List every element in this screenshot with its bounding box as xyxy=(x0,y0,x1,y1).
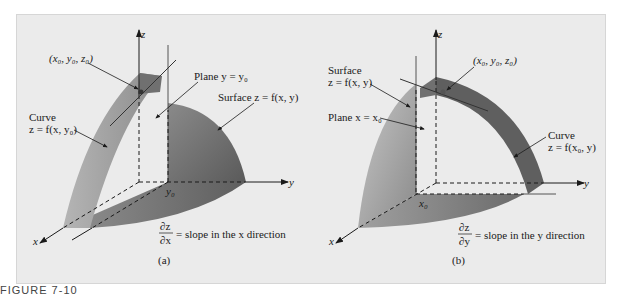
x-axis-a xyxy=(40,228,63,243)
surface-label-b-line2: z = f(x, y) xyxy=(328,76,372,89)
surface-label-a: Surface z = f(x, y) xyxy=(218,91,299,104)
derivative-num-b: ∂z xyxy=(459,221,469,233)
y-axis-label-b: y xyxy=(583,177,589,189)
point-b xyxy=(441,90,446,95)
z-axis-label-a: z xyxy=(140,28,146,40)
curve-label-b-line1: Curve xyxy=(548,129,575,141)
panel-a: z y x y₀ (x₀, y₀, z₀) Plane y = y₀ Surfa… xyxy=(29,28,299,267)
plane-label-a: Plane y = y₀ xyxy=(194,70,248,82)
derivative-num-a: ∂z xyxy=(160,220,170,232)
x-axis-label-a: x xyxy=(32,235,38,247)
derivative-text-b: = slope in the y direction xyxy=(475,229,585,241)
derivative-text-a: = slope in the x direction xyxy=(176,228,286,240)
panel-b: z y x x₀ (x₀, y₀, z₀) Surface z = f(x, y… xyxy=(328,28,596,267)
curve-label-a-line1: Curve xyxy=(29,111,56,123)
figure-diagram: z y x y₀ (x₀, y₀, z₀) Plane y = y₀ Surfa… xyxy=(0,0,618,294)
y-axis-label-a: y xyxy=(288,176,294,188)
curve-label-b-line2: z = f(x₀, y) xyxy=(548,141,596,154)
x-axis-label-b: x xyxy=(328,235,334,247)
sublabel-b: (b) xyxy=(452,254,465,267)
curve-label-a-line2: z = f(x, y₀) xyxy=(29,123,77,136)
x-axis-b xyxy=(336,228,358,243)
sublabel-a: (a) xyxy=(158,254,171,267)
point-a xyxy=(139,90,144,95)
figure-caption: FIGURE 7-10 xyxy=(0,284,78,294)
point-label-b: (x₀, y₀, z₀) xyxy=(473,54,517,67)
y0-tick-label: y₀ xyxy=(165,185,175,197)
derivative-den-a: ∂x xyxy=(160,234,171,246)
z-axis-label-b: z xyxy=(437,28,443,40)
curve-band-b xyxy=(436,77,544,194)
plane-label-b: Plane x = x₀ xyxy=(328,111,382,123)
x0-tick-label: x₀ xyxy=(418,197,428,209)
surface-a xyxy=(168,103,246,182)
derivative-den-b: ∂y xyxy=(459,235,470,247)
point-label-a: (x₀, y₀, z₀) xyxy=(49,52,93,65)
surface-label-b-line1: Surface xyxy=(328,64,362,76)
